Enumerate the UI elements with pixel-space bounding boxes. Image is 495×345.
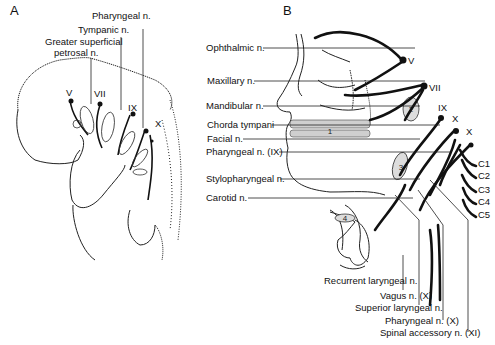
label-carotid-n: Carotid n.	[206, 192, 247, 203]
nerve-vii-b: VII	[429, 82, 441, 93]
label-pharyngeal-n-ix: Pharyngeal n. (IX)	[206, 146, 283, 157]
label-vagus-n-x: Vagus n. (X)	[380, 290, 432, 301]
nerve-x-b-2: X	[466, 126, 472, 137]
label-recurrent-laryngeal-n: Recurrent laryngeal n.	[324, 275, 417, 286]
label-spinal-accessory-n-xi: Spinal accessory n. (XI)	[380, 327, 480, 338]
nerve-ix-a: IX	[128, 102, 137, 113]
label-ophthalmic-n: Ophthalmic n.	[206, 42, 265, 53]
nerve-vii-a: VII	[94, 88, 106, 99]
panel-a-label: A	[10, 3, 19, 18]
label-pharyngeal-n-x: Pharyngeal n. (X)	[385, 315, 459, 326]
label-c1: C1	[478, 158, 490, 169]
label-c3: C3	[478, 184, 490, 195]
arch-number-1: 1	[328, 127, 333, 136]
label-mandibular-n: Mandibular n.	[206, 100, 264, 111]
label-stylopharyngeal-n: Stylopharyngeal n.	[206, 173, 285, 184]
arch-number-4: 4	[343, 214, 348, 223]
label-maxillary-n: Maxillary n.	[207, 75, 255, 86]
label-tympanic-n: Tympanic n.	[78, 24, 129, 35]
panel-b-label: B	[283, 3, 292, 18]
nerve-x-a: X	[155, 118, 161, 129]
nerve-x-b-1: X	[452, 113, 458, 124]
label-petrosal-n: petrosal n.	[54, 47, 98, 58]
nerve-v-b: V	[408, 55, 414, 66]
label-pharyngeal-n: Pharyngeal n.	[92, 10, 151, 21]
label-facial-n: Facial n.	[207, 133, 243, 144]
nerve-v-a: V	[66, 87, 72, 98]
label-c4: C4	[478, 196, 490, 207]
label-superior-laryngeal-n: Superior laryngeal n.	[355, 302, 443, 313]
label-chorda-tympani: Chorda tympani	[207, 119, 274, 130]
label-greater-superficial: Greater superficial	[45, 36, 123, 47]
label-c2: C2	[478, 170, 490, 181]
label-c5: C5	[478, 209, 490, 220]
nerve-ix-b: IX	[438, 102, 447, 113]
